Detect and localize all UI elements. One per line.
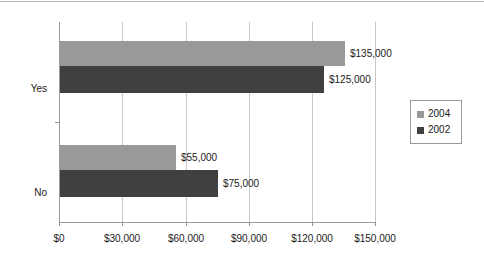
bar-chart: Yes No $135,000 $125,000 $55,000 <box>0 0 484 267</box>
xtick-label-0: $0 <box>53 234 64 244</box>
legend-label-2004: 2004 <box>428 109 450 119</box>
xtick-label-30000: $30,000 <box>104 234 140 244</box>
xtick-label-60000: $60,000 <box>168 234 204 244</box>
xtick-label-90000: $90,000 <box>231 234 267 244</box>
legend-label-2002: 2002 <box>428 125 450 135</box>
plot-area: $135,000 $125,000 $55,000 $75,000 <box>59 22 376 222</box>
bar-yes-2004[interactable] <box>60 41 345 66</box>
bar-label-yes-2002: $125,000 <box>329 75 371 85</box>
category-axis: Yes No <box>0 22 59 222</box>
bar-label-no-2004: $55,000 <box>181 153 217 163</box>
bar-no-2002[interactable] <box>60 170 218 197</box>
tick-150000 <box>375 222 376 226</box>
top-rule-divider <box>0 1 484 2</box>
xtick-label-150000: $150,000 <box>354 234 396 244</box>
bar-yes-2002[interactable] <box>60 66 324 93</box>
legend-item-2002[interactable]: 2002 <box>417 122 461 138</box>
tick-120000 <box>312 222 313 226</box>
legend-swatch-2004-icon <box>417 111 424 118</box>
legend-item-2004[interactable]: 2004 <box>417 106 461 122</box>
bar-no-2004[interactable] <box>60 145 176 170</box>
chart-legend: 2004 2002 <box>410 100 462 144</box>
tick-30000 <box>122 222 123 226</box>
bar-label-yes-2004: $135,000 <box>350 49 392 59</box>
tick-60000 <box>186 222 187 226</box>
legend-swatch-2002-icon <box>417 127 424 134</box>
xtick-label-120000: $120,000 <box>291 234 333 244</box>
category-separator-tick <box>55 122 60 123</box>
tick-0 <box>59 222 60 226</box>
category-label-no: No <box>34 188 47 198</box>
tick-90000 <box>249 222 250 226</box>
category-label-yes: Yes <box>31 84 47 94</box>
bar-label-no-2002: $75,000 <box>223 179 259 189</box>
category-axis-line <box>59 222 376 223</box>
